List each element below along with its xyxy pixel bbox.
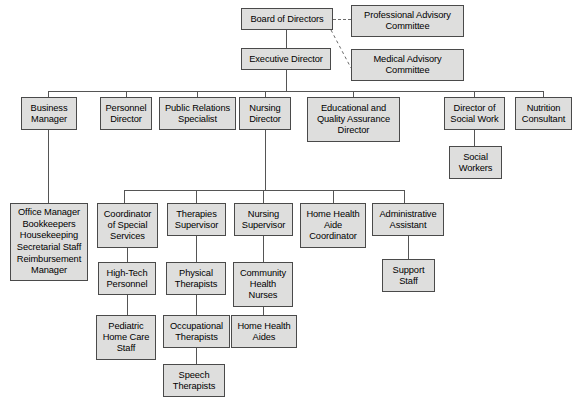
org-node-office_list: Office Manager Bookkeepers Housekeeping …: [10, 203, 88, 281]
org-node-nutrition: Nutrition Consultant: [515, 97, 572, 130]
org-node-social_wrk: Social Workers: [449, 146, 502, 179]
connector-level2-bus: [48, 91, 544, 92]
org-node-public_rel: Public Relations Specialist: [159, 97, 236, 130]
connector-drop-therapies: [196, 190, 197, 203]
org-node-personnel: Personnel Director: [100, 97, 152, 130]
org-node-exec: Executive Director: [241, 48, 331, 70]
org-node-edu_qa: Educational and Quality Assurance Direct…: [307, 97, 400, 142]
org-node-comm_health: Community Health Nurses: [233, 262, 293, 307]
connector-level3-bus: [124, 190, 405, 191]
connector-hightech-to-peds: [127, 295, 128, 315]
org-node-coord_spec: Coordinator of Special Services: [97, 203, 158, 248]
org-node-nursing_sup: Nursing Supervisor: [234, 203, 293, 236]
connector-drop-coord-spec: [124, 190, 125, 203]
connector-exec-down-stem: [286, 70, 287, 91]
connector-admin-elbow-down: [408, 236, 409, 248]
connector-drop-hha-coord: [333, 190, 334, 203]
connector-admin-to-support: [408, 248, 409, 259]
connector-occ-to-speech: [196, 348, 197, 364]
connector-comm-to-aides: [263, 307, 264, 315]
connector-drop-admin-asst: [404, 190, 405, 203]
org-node-med_adv: Medical Advisory Committee: [351, 49, 464, 81]
connector-therapies-to-physical: [196, 236, 197, 262]
org-node-hightech: High-Tech Personnel: [98, 262, 156, 295]
org-node-board: Board of Directors: [241, 8, 333, 30]
connector-drop-nursing-sup: [263, 190, 264, 203]
org-node-admin_asst: Administrative Assistant: [372, 203, 444, 236]
org-node-hha_coord: Home Health Aide Coordinator: [300, 203, 366, 248]
connector-social-work-to-workers: [474, 130, 475, 146]
org-node-therapies_sup: Therapies Supervisor: [167, 203, 226, 236]
org-node-business: Business Manager: [21, 97, 77, 130]
org-node-hh_aides: Home Health Aides: [231, 315, 297, 348]
connector-nursing-dir-stem: [265, 130, 266, 190]
connector-business-to-office: [48, 130, 49, 203]
dashed-connector-board-to-professional-advisory: [333, 19, 351, 20]
org-node-dir_social: Director of Social Work: [444, 97, 505, 130]
org-node-occupational: Occupational Therapists: [163, 315, 230, 348]
org-node-peds_home: Pediatric Home Care Staff: [96, 315, 156, 360]
connector-coord-to-hightech: [127, 248, 128, 262]
org-node-nursing_dir: Nursing Director: [239, 97, 291, 130]
org-node-speech_th: Speech Therapists: [163, 364, 225, 397]
connector-nursing-sup-to-comm: [263, 236, 264, 262]
connector-board-to-exec: [286, 30, 287, 48]
connector-physical-to-occ: [196, 295, 197, 315]
org-node-prof_adv: Professional Advisory Committee: [351, 5, 464, 37]
org-chart: Board of DirectorsProfessional Advisory …: [0, 0, 578, 407]
org-node-support_staff: Support Staff: [382, 259, 435, 292]
org-node-physical_th: Physical Therapists: [166, 262, 226, 295]
dashed-connector-board-to-medical-advisory: [331, 30, 353, 70]
